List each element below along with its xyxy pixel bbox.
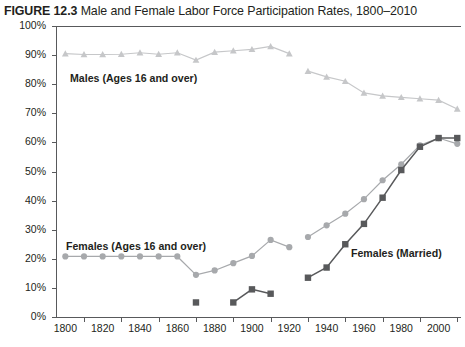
data-point-circle [174, 253, 180, 259]
data-point-square [454, 135, 460, 141]
data-point-square [417, 144, 423, 150]
annotation-females-married: Females (Married) [351, 247, 442, 259]
data-point-circle [156, 253, 162, 259]
series-line [308, 138, 457, 237]
data-point-circle [361, 196, 367, 202]
data-point-square [361, 221, 367, 227]
figure-container: FIGURE 12.3 Male and Female Labor Force … [0, 0, 465, 347]
data-point-circle [342, 211, 348, 217]
data-point-circle [454, 141, 460, 147]
data-point-circle [81, 253, 87, 259]
data-point-circle [212, 267, 218, 273]
data-point-circle [137, 253, 143, 259]
data-point-triangle [267, 43, 274, 49]
data-point-circle [324, 222, 330, 228]
data-point-square [398, 167, 404, 173]
data-point-square [230, 299, 236, 305]
data-point-circle [380, 177, 386, 183]
data-point-square [342, 241, 348, 247]
series-square [193, 135, 461, 306]
series-line [308, 71, 457, 109]
data-point-circle [100, 253, 106, 259]
data-point-circle [286, 244, 292, 250]
data-point-triangle [454, 106, 461, 112]
data-point-triangle [305, 68, 312, 74]
data-point-circle [268, 237, 274, 243]
data-point-square [193, 299, 199, 305]
data-point-square [249, 286, 255, 292]
series-layer [0, 0, 465, 347]
data-point-circle [193, 272, 199, 278]
data-point-square [305, 275, 311, 281]
data-point-circle [230, 260, 236, 266]
data-point-square [379, 194, 385, 200]
data-point-triangle [361, 90, 368, 96]
annotation-females-all: Females (Ages 16 and over) [66, 240, 206, 252]
data-point-square [323, 264, 329, 270]
data-point-circle [305, 234, 311, 240]
data-point-square [435, 135, 441, 141]
annotation-males: Males (Ages 16 and over) [70, 72, 197, 84]
data-point-circle [118, 253, 124, 259]
data-point-circle [249, 253, 255, 259]
data-point-circle [62, 253, 68, 259]
data-point-square [267, 291, 273, 297]
